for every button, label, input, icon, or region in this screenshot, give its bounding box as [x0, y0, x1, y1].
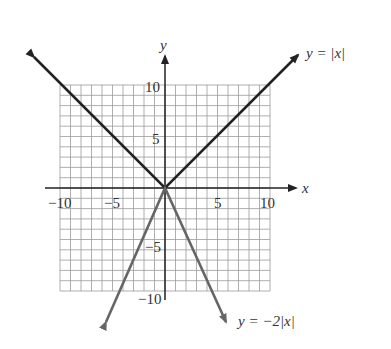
graph: y x y = |x| y = −2|x| −10 −5 5 10 10 5 −…	[0, 0, 391, 349]
y-axis-label: y	[158, 37, 167, 53]
curve-neg2-abs-x	[106, 188, 226, 322]
x-axis-label: x	[301, 180, 309, 196]
tick-y-10: 10	[145, 79, 160, 95]
tick-x-neg5: −5	[104, 195, 120, 211]
tick-y-neg5: −5	[145, 239, 161, 255]
curve-abs-x	[34, 55, 298, 188]
tick-x-neg10: −10	[48, 195, 71, 211]
tick-y-5: 5	[152, 131, 160, 147]
tick-x-10: 10	[260, 195, 275, 211]
tick-y-neg10: −10	[138, 291, 161, 307]
tick-x-5: 5	[214, 195, 222, 211]
curve2-label: y = −2|x|	[236, 313, 295, 329]
curve1-label: y = |x|	[304, 45, 345, 61]
